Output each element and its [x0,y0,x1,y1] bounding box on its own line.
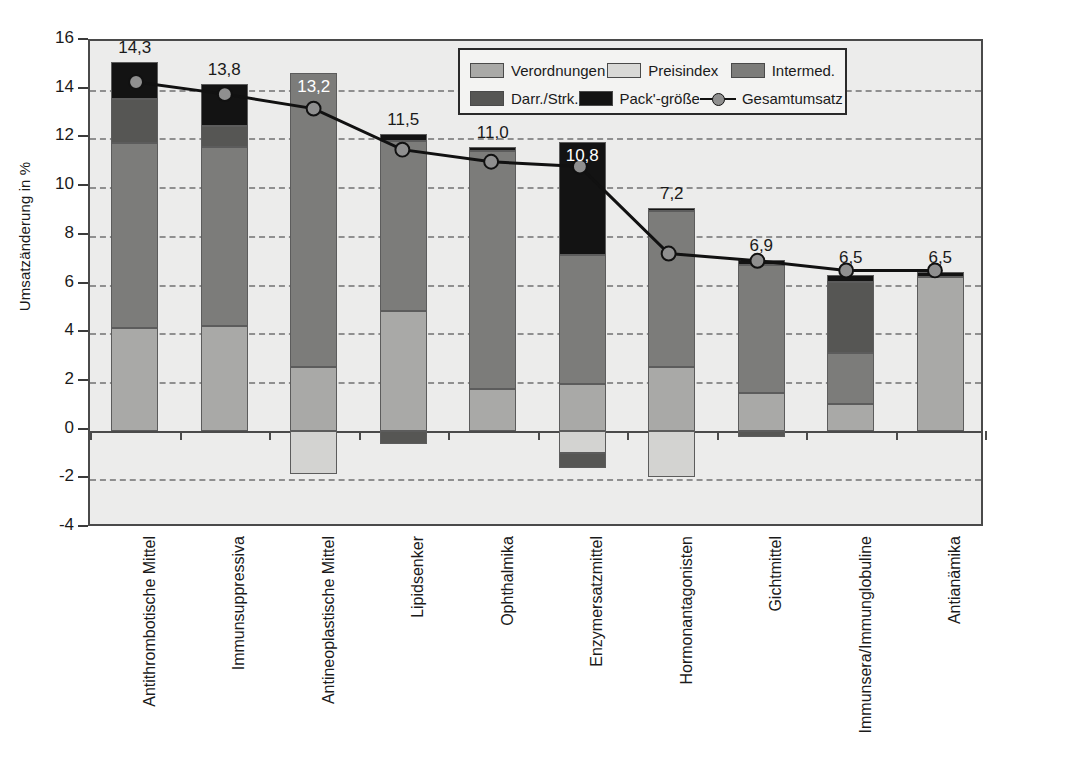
legend-label-verordnungen: Verordnungen [511,62,605,79]
y-tick-mark [78,525,88,527]
legend-line-marker-icon [700,91,736,106]
data-point-label: 6,5 [895,248,986,268]
y-tick-mark [78,379,88,381]
legend-item-packgroesse[interactable]: Pack'-größe [579,90,700,107]
legend-label-packgroesse: Pack'-größe [620,90,700,107]
gesamtumsatz-marker[interactable] [484,155,498,169]
legend-item-intermed[interactable]: Intermed. [731,62,835,79]
x-axis-label: Hormonantagonisten [678,536,696,685]
y-tick-mark [78,233,88,235]
y-tick-label: 14 [28,77,74,97]
chart-container: Umsatzänderung in % -4-20246810121416 14… [0,0,1073,779]
data-point-label: 11,5 [358,110,449,130]
legend-swatch-darr-strk-icon [470,91,504,106]
y-tick-mark [78,476,88,478]
x-tick-mark [985,431,987,440]
data-point-label: 11,0 [447,123,538,143]
y-tick-label: 4 [28,320,74,340]
y-axis-ticks: -4-20246810121416 [0,0,74,779]
gesamtumsatz-marker[interactable] [307,102,321,116]
x-axis-label: Immunsera/Immunglobuline [857,536,875,733]
legend-label-darr-strk: Darr./Strk. [511,90,579,107]
legend-swatch-verordnungen-icon [470,63,504,78]
legend-row-1: Verordnungen Preisindex Intermed. [470,56,835,84]
x-axis-label: Immunsuppressiva [230,536,248,670]
data-point-label: 6,5 [805,248,896,268]
y-tick-label: 6 [28,272,74,292]
legend-label-preisindex: Preisindex [648,62,718,79]
x-axis-label: Antineoplastische Mittel [320,536,338,704]
gesamtumsatz-marker[interactable] [662,247,676,261]
legend-label-intermed: Intermed. [772,62,835,79]
y-tick-label: 0 [28,418,74,438]
y-tick-label: -4 [28,515,74,535]
data-point-label: 14,3 [89,38,180,58]
gesamtumsatz-marker[interactable] [395,143,409,157]
legend-item-darr-strk[interactable]: Darr./Strk. [470,90,579,107]
y-tick-mark [78,184,88,186]
y-tick-label: 2 [28,369,74,389]
x-axis-label: Lipidsenker [409,536,427,618]
legend-swatch-preisindex-icon [607,63,641,78]
legend-item-gesamtumsatz[interactable]: Gesamtumsatz [700,90,843,107]
data-point-label: 13,8 [179,60,270,80]
x-axis-label: Ophthalmika [499,536,517,626]
data-point-label: 10,8 [537,146,628,166]
y-tick-label: 12 [28,125,74,145]
gesamtumsatz-marker[interactable] [129,75,143,89]
data-point-label: 6,9 [716,236,807,256]
y-tick-label: 8 [28,223,74,243]
y-tick-mark [78,87,88,89]
y-tick-mark [78,428,88,430]
legend-item-verordnungen[interactable]: Verordnungen [470,62,607,79]
data-point-label: 7,2 [626,184,717,204]
chart-legend[interactable]: Verordnungen Preisindex Intermed. Darr./… [458,48,847,115]
y-tick-mark [78,330,88,332]
y-tick-label: -2 [28,466,74,486]
data-point-label: 13,2 [268,77,359,97]
x-axis-label: Antithrombotische Mittel [141,536,159,707]
legend-swatch-intermed-icon [731,63,765,78]
y-tick-label: 16 [28,28,74,48]
y-tick-mark [78,135,88,137]
x-axis-label: Antianämika [946,536,964,624]
x-axis-label: Enzymersatzmittel [588,536,606,667]
x-axis-label: Gichtmittel [767,536,785,612]
y-tick-mark [78,38,88,40]
legend-row-2: Darr./Strk. Pack'-größe Gesamtumsatz [470,84,835,112]
legend-item-preisindex[interactable]: Preisindex [607,62,730,79]
y-tick-label: 10 [28,174,74,194]
y-tick-mark [78,282,88,284]
gesamtumsatz-marker[interactable] [218,87,232,101]
legend-swatch-packgroesse-icon [579,91,613,106]
legend-label-gesamtumsatz: Gesamtumsatz [742,90,843,107]
